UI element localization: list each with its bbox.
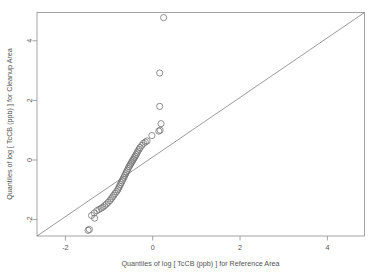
y-tick-label: -2 [25,216,34,222]
x-axis-title: Quantiles of log [ TcCB (ppb) ] for Refe… [121,259,279,268]
y-tick-label: 4 [25,39,34,43]
x-tick-label: -2 [62,243,68,252]
plot-background [0,0,375,280]
qq-plot-canvas: -2024-2024 Quantiles of log [ TcCB (ppb)… [0,0,375,280]
x-tick-label: 2 [238,243,242,252]
y-tick-label: 0 [25,158,34,162]
y-tick-label: 2 [25,98,34,102]
qq-plot-figure: -2024-2024 Quantiles of log [ TcCB (ppb)… [0,0,375,280]
y-axis-title: Quantiles of log [ TcCB (ppb) ] for Clea… [5,48,14,200]
x-tick-label: 4 [325,243,329,252]
x-tick-label: 0 [151,243,155,252]
